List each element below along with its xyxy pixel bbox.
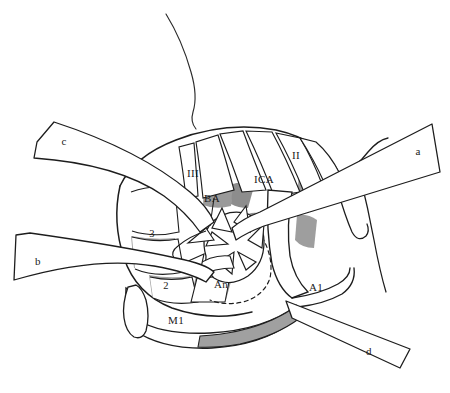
retractor-d[interactable]: d — [286, 301, 410, 368]
label-segment-three: 3 — [149, 228, 155, 239]
label-aneurysm: An — [214, 278, 228, 290]
label-cranial-nerve-ii: II — [292, 149, 300, 161]
label-internal-carotid-artery: ICA — [254, 173, 274, 185]
label-cranial-nerve-iii: III — [187, 167, 199, 179]
retractor-a-label: a — [415, 145, 420, 157]
label-basilar-artery: BA — [204, 192, 220, 204]
drawing-layer: a c b d III BA ICA II — [14, 14, 440, 368]
figure-root: a c b d III BA ICA II — [0, 0, 450, 393]
upper-free-curve — [166, 14, 196, 129]
retractor-b[interactable]: b — [14, 233, 214, 282]
figure-caption — [0, 383, 450, 393]
anatomical-diagram: a c b d III BA ICA II — [0, 0, 450, 393]
retractor-b-label: b — [35, 255, 41, 267]
label-middle-cerebral-m1: M1 — [168, 314, 184, 326]
label-anterior-cerebral-a1: A1 — [309, 281, 323, 293]
retractor-d-label: d — [366, 345, 372, 357]
retractor-c-label: c — [61, 135, 66, 147]
label-segment-two: 2 — [163, 280, 169, 291]
